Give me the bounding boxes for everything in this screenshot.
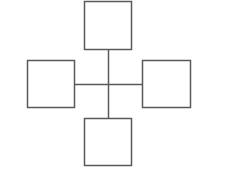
box-bottom: [85, 119, 132, 166]
box-top: [85, 2, 132, 50]
box-left: [28, 61, 75, 108]
box-right: [143, 61, 191, 108]
cross-diagram: [0, 0, 227, 174]
